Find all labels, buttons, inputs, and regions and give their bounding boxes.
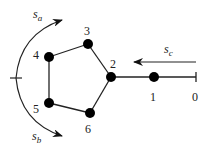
label-node-1: 1 (150, 90, 156, 104)
edge-3-4 (49, 44, 88, 57)
node-6 (85, 108, 95, 118)
graph-diagram: 0 1 2 3 4 5 6 sa sb sc (0, 0, 206, 151)
node-2 (106, 72, 116, 82)
label-node-6: 6 (85, 122, 91, 136)
node-labels: 0 1 2 3 4 5 6 (33, 24, 198, 136)
node-4 (44, 52, 54, 62)
node-1 (149, 72, 159, 82)
label-s-c: sc (164, 42, 173, 58)
arc-s-b (16, 78, 62, 136)
node-5 (44, 98, 54, 108)
arc-s-a (16, 20, 62, 78)
node-3 (83, 39, 93, 49)
label-node-0: 0 (192, 90, 198, 104)
edge-6-2 (90, 77, 111, 113)
label-node-4: 4 (33, 48, 39, 62)
label-node-2: 2 (110, 57, 116, 71)
edges (49, 44, 196, 113)
label-s-b: sb (32, 129, 42, 145)
label-node-3: 3 (84, 24, 90, 38)
label-s-a: sa (33, 7, 43, 23)
label-node-5: 5 (33, 102, 39, 116)
edge-5-6 (49, 103, 90, 113)
edge-2-3 (88, 44, 111, 77)
